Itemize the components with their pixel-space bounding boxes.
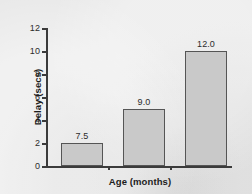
y-axis-tick [42, 166, 46, 168]
x-axis-title: Age (months) [0, 176, 252, 187]
x-axis-tick [108, 166, 110, 170]
bar-category-3: 12.0 [185, 51, 227, 166]
bar-value-label: 7.5 [76, 131, 89, 141]
plot-area: 0 2 4 6 8 10 12 7.5 9.0 12.0 [47, 28, 232, 166]
bar-category-1: 7.5 [61, 143, 103, 166]
bar-category-2: 9.0 [123, 109, 165, 167]
bar-value-label: 12.0 [197, 39, 215, 49]
y-axis-tick-label: 10 [30, 46, 40, 56]
y-axis-tick [42, 51, 46, 53]
y-axis-title: Delay (secs) [32, 69, 43, 126]
y-axis-tick [42, 143, 46, 145]
y-axis-tick-label: 0 [35, 161, 40, 171]
y-axis-spine [46, 28, 48, 166]
y-axis-tick [42, 28, 46, 30]
bar-value-label: 9.0 [138, 97, 151, 107]
y-axis-tick-label: 12 [30, 23, 40, 33]
y-axis-tick-label: 2 [35, 138, 40, 148]
bar-chart-figure: 0 2 4 6 8 10 12 7.5 9.0 12.0 Delay (secs… [0, 0, 252, 194]
x-axis-tick [170, 166, 172, 170]
x-axis-spine [46, 166, 232, 168]
